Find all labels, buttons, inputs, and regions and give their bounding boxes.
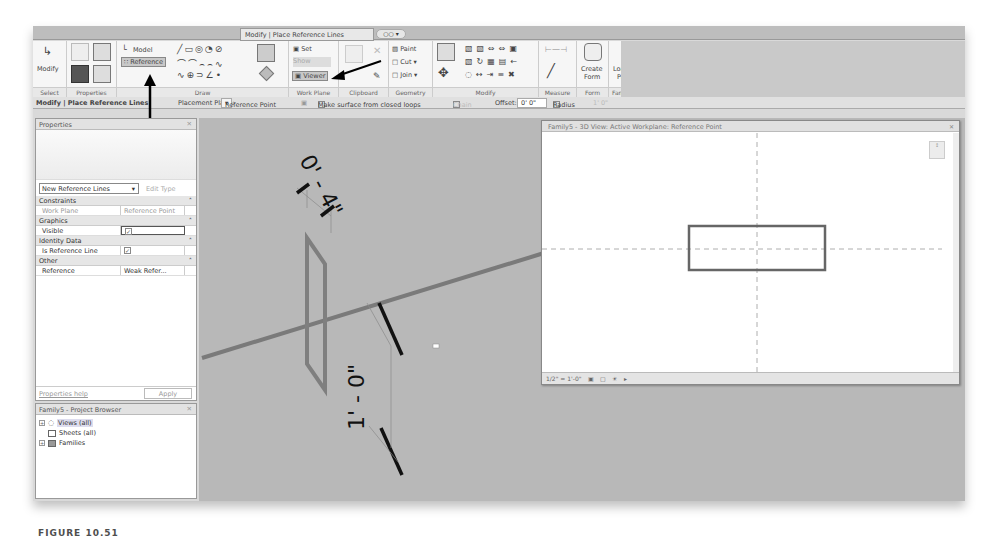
tree-item-views[interactable]: +◌Views (all)	[39, 418, 193, 428]
dimension-bottom[interactable]: 1' - 0"	[344, 364, 369, 430]
reference-line-button[interactable]: ∷ Reference	[121, 57, 166, 67]
category-label: Identity Data	[39, 237, 82, 245]
is-reference-line-checkbox[interactable]: ✓	[124, 247, 131, 254]
visible-checkbox[interactable]: ✓	[125, 228, 132, 235]
visible-checkbox-cell[interactable]: ✓	[121, 226, 185, 235]
pick-faces-icon[interactable]	[259, 66, 275, 82]
category-constraints[interactable]: Constraints˄	[36, 196, 196, 206]
viewcube-icon[interactable]: ↕	[929, 141, 945, 159]
viewer-title: Family5 - 3D View: Active Workplane: Ref…	[548, 123, 722, 131]
view-scale[interactable]: 1/2" = 1'-0"	[546, 375, 581, 382]
set-workplane-button[interactable]: ▣ Set	[293, 45, 312, 53]
panel-modify: ✥ ▧▧⇔⇔▣ ▧↻▦▤← ◌↔⇥≡✖ Modify	[433, 41, 539, 97]
project-browser-title: Family5 - Project Browser✕	[36, 404, 196, 415]
viewer-button[interactable]: ▣ Viewer	[292, 71, 328, 81]
radius-input[interactable]: 1' 0"	[593, 99, 608, 107]
create-form-button[interactable]: Create	[581, 65, 603, 73]
detail-level-icon[interactable]: ▣	[588, 375, 594, 382]
cut-geometry-button[interactable]: □ Cut ▾	[392, 58, 417, 66]
modify-tools-row1-icon[interactable]: ▧▧⇔⇔▣	[465, 44, 521, 53]
panel-properties: Properties	[67, 41, 117, 97]
properties-footer: Properties help Apply	[36, 386, 196, 400]
measure-tool-icon[interactable]: ╱	[547, 63, 555, 78]
join-button[interactable]: □ Join ▾	[392, 71, 417, 79]
panel-geometry: ▧ Paint □ Cut ▾ □ Join ▾ Geometry	[389, 41, 433, 97]
expand-icon[interactable]: +	[39, 420, 45, 426]
close-icon[interactable]: ✕	[187, 405, 192, 413]
properties-palette-icon[interactable]	[71, 65, 89, 83]
create-form-icon[interactable]	[584, 43, 602, 61]
category-label: Other	[39, 257, 57, 265]
reference-plane-shape[interactable]	[307, 238, 325, 390]
cut-clipboard-icon[interactable]: ✕	[373, 45, 381, 56]
is-reference-line-cell[interactable]: ✓	[121, 246, 185, 255]
sun-path-icon[interactable]: ☀	[612, 375, 617, 382]
align-icon[interactable]	[437, 43, 455, 61]
property-row-is-reference-line: Is Reference Line✓	[36, 246, 196, 256]
chain-label: Chain	[453, 101, 472, 109]
panel-clipboard: ✕ ✎ Clipboard	[339, 41, 389, 97]
category-identity-data[interactable]: Identity Data˄	[36, 236, 196, 246]
reference-dropdown[interactable]: Weak Refer...	[121, 266, 185, 275]
viewer-canvas[interactable]	[542, 133, 959, 373]
tab-modify-place-reference-lines[interactable]: Modify | Place Reference Lines	[240, 28, 374, 41]
category-other[interactable]: Other˄	[36, 256, 196, 266]
cut-geometry-icon: □	[392, 58, 400, 66]
type-selector[interactable]: New Reference Lines▾	[39, 183, 139, 194]
view-control-bar: 1/2" = 1'-0" ▣ ▢ ☀ ▸	[542, 372, 959, 384]
family-types-icon[interactable]	[71, 43, 89, 61]
model-line-button[interactable]: Model	[133, 46, 153, 54]
join-label: Join	[400, 71, 412, 79]
tree-item-families[interactable]: +Families	[39, 438, 193, 448]
draw-arcs-icon[interactable]: ⌒⌒⌢⌢∿	[177, 57, 225, 70]
match-type-icon[interactable]: ✎	[373, 71, 381, 81]
cursor-marker	[433, 344, 439, 348]
create-form-button-line2[interactable]: Form	[584, 73, 600, 81]
apply-button[interactable]: Apply	[144, 388, 192, 399]
tree-item-label: Views (all)	[57, 419, 93, 427]
visual-style-icon[interactable]: ▢	[600, 375, 606, 382]
category-graphics[interactable]: Graphics˄	[36, 216, 196, 226]
close-icon[interactable]: ✕	[187, 120, 192, 128]
paste-icon[interactable]	[345, 45, 363, 63]
placement-plane-select[interactable]: Reference Point ▾	[221, 98, 232, 108]
tree-item-sheets[interactable]: Sheets (all)	[39, 428, 193, 438]
ribbon-display-toggle[interactable]: ○○ ▾	[376, 29, 406, 39]
options-bar: Modify | Place Reference Lines Placement…	[33, 97, 965, 109]
viewer-scrollbar[interactable]	[953, 133, 959, 372]
show-workplane-button[interactable]: Show	[293, 57, 331, 67]
panel-form: Create Form Form	[577, 41, 609, 97]
properties-help-link[interactable]: Properties help	[39, 390, 88, 398]
cut-label: Cut	[400, 58, 411, 66]
aligned-dimension-icon[interactable]: ⊢—⊣	[545, 45, 567, 54]
type-selector-row: New Reference Lines▾ Edit Type	[36, 182, 196, 196]
close-icon[interactable]: ✕	[949, 123, 954, 130]
expand-icon[interactable]: +	[39, 440, 45, 446]
move-icon[interactable]: ✥	[438, 65, 449, 80]
modify-button[interactable]: Modify	[37, 65, 59, 73]
more-controls-icon[interactable]: ▸	[624, 375, 627, 382]
property-key: Is Reference Line	[36, 246, 121, 255]
draw-shapes-row3-icon[interactable]: ∿⊕⊃∠•	[177, 70, 223, 80]
family-category-icon[interactable]	[93, 43, 111, 61]
draw-shapes-row1-icon[interactable]: ╱▭◎◔⊘	[177, 44, 224, 54]
property-key: Reference	[36, 266, 121, 275]
placement-plane-value: Reference Point	[225, 101, 276, 109]
paint-label: Paint	[400, 45, 416, 53]
type-preview-image	[36, 130, 196, 180]
reference-line[interactable]	[202, 253, 544, 358]
edit-type-button[interactable]: Edit Type	[146, 185, 176, 193]
modify-tools-row2-icon[interactable]: ▧↻▦▤←	[465, 57, 521, 66]
panel-draw: └ Model ∷ Reference ╱▭◎◔⊘ ⌒⌒⌢⌢∿ ∿⊕⊃∠• Dr…	[117, 41, 289, 97]
properties-title-text: Properties	[39, 121, 72, 129]
property-value: Reference Point	[121, 206, 185, 215]
paint-button[interactable]: ▧ Paint	[392, 45, 416, 53]
panel-label-select: Select	[33, 87, 66, 97]
type-properties-icon[interactable]	[93, 65, 111, 83]
pick-plane-icon[interactable]: ▣	[301, 99, 307, 107]
pick-lines-icon[interactable]	[257, 44, 275, 62]
property-key: Visible	[36, 226, 121, 235]
offset-input[interactable]: 0' 0"	[517, 98, 547, 108]
dimension-top[interactable]: 0' - 4"	[295, 151, 348, 221]
modify-tools-row3-icon[interactable]: ◌↔⇥≡✖	[465, 70, 519, 79]
